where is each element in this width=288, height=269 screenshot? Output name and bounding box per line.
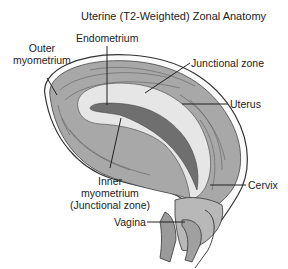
- label-inner-myometrium: Inner myometrium (Junctional zone): [62, 175, 158, 211]
- label-junctional-zone: Junctional zone: [191, 57, 264, 69]
- label-cervix: Cervix: [248, 179, 278, 191]
- vagina-shape: [160, 212, 176, 262]
- label-endometrium: Endometrium: [76, 32, 138, 44]
- label-inner-myometrium-line1: Inner: [62, 175, 158, 187]
- uterus-diagram: [0, 0, 288, 269]
- label-inner-myometrium-line2: myometrium: [62, 187, 158, 199]
- label-inner-myometrium-line3: (Junctional zone): [62, 199, 158, 211]
- diagram-title: Uterine (T2-Weighted) Zonal Anatomy: [81, 10, 266, 22]
- label-outer-myometrium: Outer myometrium: [12, 42, 72, 66]
- label-vagina: Vagina: [114, 216, 146, 228]
- label-uterus: Uterus: [230, 98, 261, 110]
- label-outer-myometrium-line1: Outer: [12, 42, 72, 54]
- label-outer-myometrium-line2: myometrium: [12, 54, 72, 66]
